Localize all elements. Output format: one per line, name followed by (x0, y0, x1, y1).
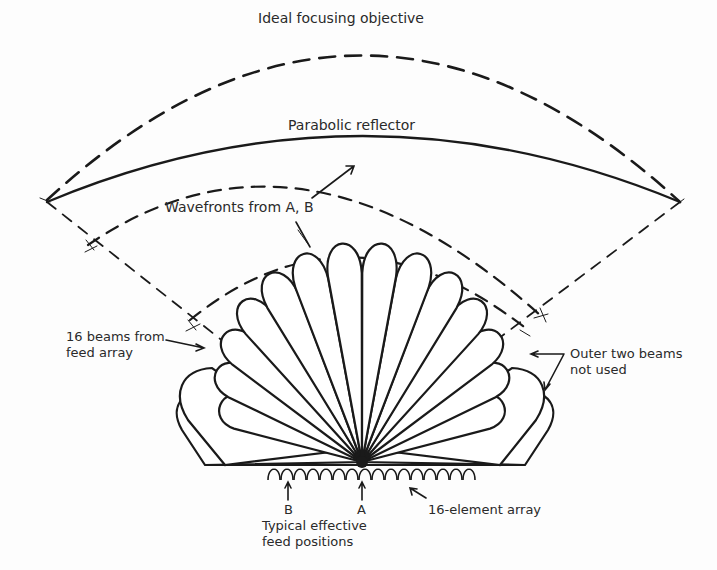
feed-positions-label: Typical effective feed positions (262, 518, 367, 550)
parabolic-reflector-label: Parabolic reflector (288, 117, 415, 133)
outer-beams-label-line2: not used (570, 362, 683, 378)
wavefront-arrow-up (312, 166, 354, 198)
beams-label-line2: feed array (66, 345, 165, 361)
wavefronts-label: Wavefronts from A, B (165, 199, 314, 215)
diagram-drawing (0, 0, 717, 570)
point-b-label: B (284, 502, 293, 518)
point-a-label: A (357, 502, 366, 518)
array-arrow (410, 488, 426, 498)
feed-focus-point (356, 456, 368, 468)
feed-positions-line2: feed positions (262, 534, 367, 550)
beams-arrow (166, 340, 204, 351)
array-elements (268, 469, 475, 480)
feed-positions-line1: Typical effective (262, 518, 367, 534)
feed-b-arrow (285, 482, 291, 500)
outer-beams-label: Outer two beams not used (570, 346, 683, 378)
outer-beams-label-line1: Outer two beams (570, 346, 683, 362)
array-label: 16-element array (428, 502, 541, 518)
wavefront-arrow-down (296, 222, 310, 247)
parabolic-reflector-curve (47, 136, 680, 202)
beams-label-line1: 16 beams from (66, 329, 165, 345)
beam-lobes (177, 244, 554, 465)
beams-label: 16 beams from feed array (66, 329, 165, 361)
ideal-objective-label: Ideal focusing objective (258, 10, 424, 26)
diagram-canvas: Ideal focusing objective Parabolic refle… (0, 0, 717, 570)
feed-a-arrow (359, 482, 365, 500)
